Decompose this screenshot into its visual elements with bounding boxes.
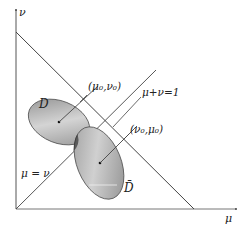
y-axis-label: ν (19, 6, 26, 19)
y-axis-arrow-icon (15, 9, 17, 11)
diagram-canvas: ν μ D D̄ (μ₀,ν₀) (ν₀,μ₀) μ+ν=1 μ = ν (0, 0, 248, 226)
point-1-label: (μ₀,ν₀) (88, 80, 121, 92)
leader-point-2 (122, 134, 129, 141)
x-axis-arrow-icon (235, 208, 237, 210)
diagonal-label: μ = ν (21, 167, 50, 179)
region-d-label: D (38, 97, 49, 111)
region-d-bar-label: D̄ (123, 180, 134, 195)
point-2-label: (ν₀,μ₀) (130, 123, 163, 135)
x-axis-label: μ (225, 212, 232, 225)
anti-diagonal-label: μ+ν=1 (142, 86, 179, 98)
